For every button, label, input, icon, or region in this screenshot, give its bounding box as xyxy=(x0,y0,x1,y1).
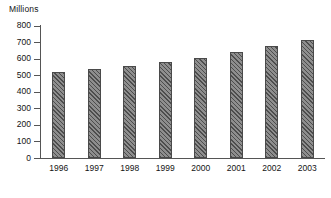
bar xyxy=(159,62,172,158)
bar-chart: Millions 0100200300400500600700800 19961… xyxy=(0,0,331,198)
bar xyxy=(88,69,101,158)
y-axis-tick xyxy=(34,59,40,60)
y-axis-title: Millions xyxy=(9,4,39,14)
y-axis-tick-label: 400 xyxy=(6,87,31,96)
bar xyxy=(194,58,207,158)
bar xyxy=(230,52,243,158)
x-axis-tick-label: 1996 xyxy=(39,164,79,173)
x-axis-tick-label: 1998 xyxy=(110,164,150,173)
y-axis-tick xyxy=(34,26,40,27)
x-axis-line xyxy=(40,158,325,159)
y-axis-tick-label: 100 xyxy=(6,137,31,146)
x-axis-tick-label: 1997 xyxy=(74,164,114,173)
y-axis-tick-label: 500 xyxy=(6,71,31,80)
y-axis-tick xyxy=(34,92,40,93)
bar xyxy=(123,66,136,158)
y-axis-tick-label: 700 xyxy=(6,38,31,47)
x-axis-tick-label: 2002 xyxy=(252,164,292,173)
y-axis-tick xyxy=(34,158,40,159)
y-axis-tick-label: 300 xyxy=(6,104,31,113)
y-axis-tick-label: 200 xyxy=(6,120,31,129)
y-axis-tick xyxy=(34,75,40,76)
bar xyxy=(301,40,314,158)
y-axis-tick-label: 800 xyxy=(6,21,31,30)
x-axis-tick-label: 1999 xyxy=(145,164,185,173)
x-axis-tick-label: 2003 xyxy=(287,164,327,173)
bar xyxy=(52,72,65,158)
y-axis-line xyxy=(40,25,41,159)
y-axis-tick xyxy=(34,125,40,126)
y-axis-tick-label: 0 xyxy=(6,154,31,163)
x-axis-tick-label: 2000 xyxy=(181,164,221,173)
y-axis-tick-label: 600 xyxy=(6,54,31,63)
y-axis-tick xyxy=(34,42,40,43)
bar xyxy=(265,46,278,158)
y-axis-tick xyxy=(34,108,40,109)
x-axis-tick-label: 2001 xyxy=(216,164,256,173)
y-axis-tick xyxy=(34,141,40,142)
